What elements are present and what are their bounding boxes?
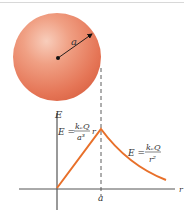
a-tick-label: a bbox=[98, 193, 103, 203]
charged-sphere: a bbox=[13, 13, 101, 101]
svg-text:a³: a³ bbox=[77, 133, 85, 142]
radius-label: a bbox=[71, 36, 77, 47]
svg-text:E =: E = bbox=[127, 148, 145, 158]
inside-formula: E = kₑQ a³ r bbox=[57, 122, 97, 142]
e-axis-label: E bbox=[54, 109, 63, 120]
svg-text:E =: E = bbox=[57, 127, 75, 137]
svg-text:r²: r² bbox=[149, 155, 156, 164]
svg-text:kₑQ: kₑQ bbox=[75, 122, 90, 131]
r-axis-label: r bbox=[179, 185, 184, 194]
field-diagram: a E r a E = kₑQ a³ r E = kₑQ r² bbox=[0, 0, 195, 220]
svg-text:kₑQ: kₑQ bbox=[146, 143, 161, 152]
